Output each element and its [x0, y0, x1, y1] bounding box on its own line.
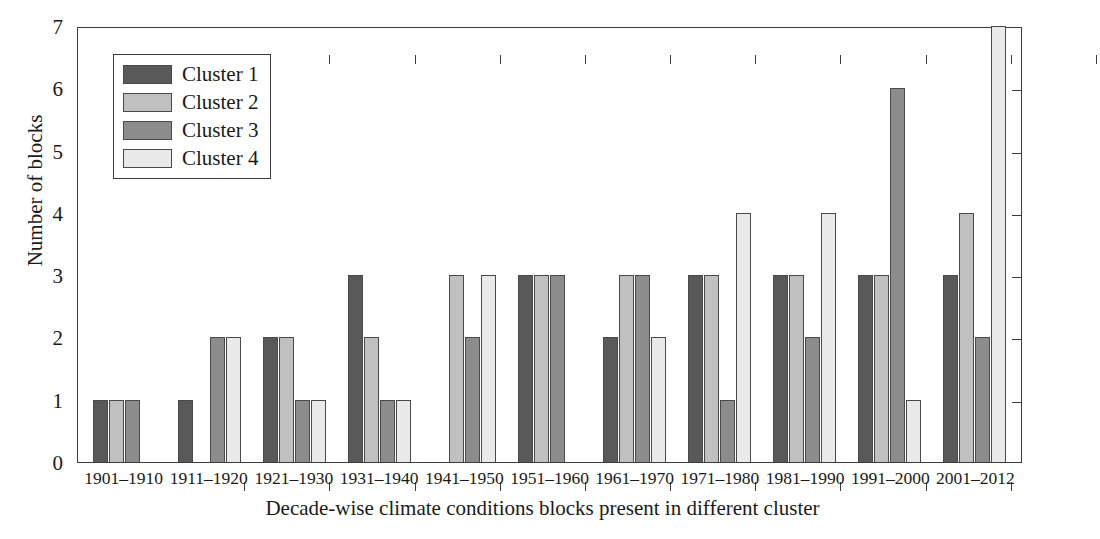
x-tick-label: 1931–1940 — [337, 468, 422, 489]
bar[interactable] — [109, 400, 124, 462]
legend-item[interactable]: Cluster 1 — [123, 62, 258, 87]
y-axis-title: Number of blocks — [23, 0, 48, 391]
x-tick-label: 1901–1910 — [81, 468, 166, 489]
bar[interactable] — [736, 213, 751, 462]
bar[interactable] — [348, 275, 363, 462]
bar-group — [337, 28, 422, 462]
bar[interactable] — [279, 337, 294, 462]
bar[interactable] — [704, 275, 719, 462]
y-tick-mark-right — [1012, 402, 1021, 403]
bar[interactable] — [773, 275, 788, 462]
legend-item-label: Cluster 4 — [182, 148, 258, 169]
legend-item[interactable]: Cluster 2 — [123, 90, 258, 115]
bar[interactable] — [263, 337, 278, 462]
bar[interactable] — [720, 400, 735, 462]
legend-item-label: Cluster 1 — [182, 64, 258, 85]
bar[interactable] — [481, 275, 496, 462]
bar[interactable] — [534, 275, 549, 462]
bar[interactable] — [93, 400, 108, 462]
bar[interactable] — [874, 275, 889, 462]
bar[interactable] — [226, 337, 241, 462]
bar[interactable] — [364, 337, 379, 462]
bar-group — [677, 28, 762, 462]
y-tick-label: 5 — [53, 141, 64, 162]
x-tick-label: 1921–1930 — [251, 468, 336, 489]
y-tick-label: 4 — [53, 203, 64, 224]
legend-swatch-icon — [123, 121, 172, 140]
bar[interactable] — [959, 213, 974, 462]
x-tick-label: 1941–1950 — [422, 468, 507, 489]
bar[interactable] — [380, 400, 395, 462]
legend-swatch-icon — [123, 65, 172, 84]
bar[interactable] — [603, 337, 618, 462]
y-tick-label: 0 — [53, 453, 64, 474]
legend-swatch-icon — [123, 93, 172, 112]
x-tick-label: 1911–1920 — [166, 468, 251, 489]
bar[interactable] — [805, 337, 820, 462]
bar[interactable] — [619, 275, 634, 462]
bar[interactable] — [975, 337, 990, 462]
bar[interactable] — [858, 275, 873, 462]
y-tick-mark-right — [1012, 339, 1021, 340]
bar[interactable] — [518, 275, 533, 462]
y-tick-mark-right — [1012, 90, 1021, 91]
bar[interactable] — [311, 400, 326, 462]
x-tick-label: 1961–1970 — [592, 468, 677, 489]
x-axis-title: Decade-wise climate conditions blocks pr… — [0, 496, 1085, 521]
y-tick-mark-right — [1012, 215, 1021, 216]
y-tick-label: 7 — [53, 17, 64, 38]
y-tick-mark-right — [1012, 277, 1021, 278]
legend-item-label: Cluster 2 — [182, 92, 258, 113]
bar[interactable] — [991, 26, 1006, 462]
y-tick-label: 1 — [53, 390, 64, 411]
bar-group — [422, 28, 507, 462]
bar-group — [762, 28, 847, 462]
x-tick-mark-top — [1096, 55, 1097, 64]
bar[interactable] — [125, 400, 140, 462]
bar[interactable] — [210, 337, 225, 462]
legend: Cluster 1Cluster 2Cluster 3Cluster 4 — [113, 54, 271, 179]
bar[interactable] — [295, 400, 310, 462]
bar[interactable] — [449, 275, 464, 462]
bar-group — [592, 28, 677, 462]
bar[interactable] — [396, 400, 411, 462]
legend-swatch-icon — [123, 149, 172, 168]
x-axis-tick-labels: 1901–19101911–19201921–19301931–19401941… — [77, 468, 1022, 489]
legend-item[interactable]: Cluster 3 — [123, 118, 258, 143]
x-tick-label: 1951–1960 — [507, 468, 592, 489]
bar[interactable] — [550, 275, 565, 462]
bar-group — [932, 28, 1017, 462]
y-tick-label: 2 — [53, 328, 64, 349]
x-tick-label: 1981–1990 — [763, 468, 848, 489]
bar-group — [507, 28, 592, 462]
bar[interactable] — [178, 400, 193, 462]
bar[interactable] — [635, 275, 650, 462]
legend-item-label: Cluster 3 — [182, 120, 258, 141]
y-tick-label: 6 — [53, 79, 64, 100]
y-tick-label: 3 — [53, 266, 64, 287]
bar-group — [847, 28, 932, 462]
bar[interactable] — [651, 337, 666, 462]
bar[interactable] — [465, 337, 480, 462]
bar[interactable] — [821, 213, 836, 462]
bar[interactable] — [906, 400, 921, 462]
x-tick-label: 1971–1980 — [677, 468, 762, 489]
y-tick-mark-right — [1012, 153, 1021, 154]
bar[interactable] — [688, 275, 703, 462]
legend-item[interactable]: Cluster 4 — [123, 146, 258, 171]
x-tick-label: 2001–2012 — [933, 468, 1018, 489]
bar[interactable] — [890, 88, 905, 462]
x-tick-label: 1991–2000 — [848, 468, 933, 489]
bar[interactable] — [943, 275, 958, 462]
bar[interactable] — [789, 275, 804, 462]
